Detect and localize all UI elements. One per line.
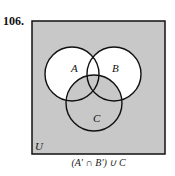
set-expression: (A′ ∩ B′) ∪ C: [0, 157, 175, 168]
universe-label: U: [35, 140, 44, 152]
set-b-label: B: [112, 62, 119, 74]
set-c-label: C: [93, 112, 101, 124]
venn-diagram: A B C U: [0, 0, 175, 176]
set-a-label: A: [70, 62, 78, 74]
